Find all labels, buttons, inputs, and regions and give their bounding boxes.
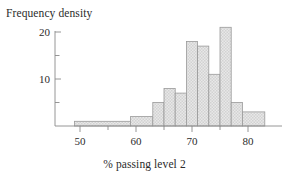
histogram-bar	[209, 74, 220, 126]
y-axis-tick-label: 10	[39, 73, 51, 85]
histogram-bar	[153, 103, 164, 127]
y-axis-tick-label: 20	[39, 26, 51, 38]
x-axis-tick-label: 80	[243, 135, 255, 147]
histogram-bar	[220, 27, 231, 126]
x-axis-tick-label: 70	[187, 135, 199, 147]
histogram-bar	[74, 121, 130, 126]
x-axis-tick-label: 50	[75, 135, 87, 147]
histogram-bar	[130, 117, 152, 126]
histogram-bar	[186, 41, 197, 126]
histogram-bar	[164, 88, 175, 126]
bars-layer	[74, 27, 264, 126]
x-axis-tick-label: 60	[131, 135, 143, 147]
x-axis-label: % passing level 2	[0, 158, 289, 170]
histogram-bar	[198, 46, 209, 126]
histogram-bar	[242, 112, 264, 126]
plot-canvas: 102050607080	[0, 0, 289, 179]
histogram-bar	[231, 103, 242, 127]
histogram-bar	[175, 93, 186, 126]
histogram-figure: Frequency density 102050607080 % passing…	[0, 0, 289, 179]
